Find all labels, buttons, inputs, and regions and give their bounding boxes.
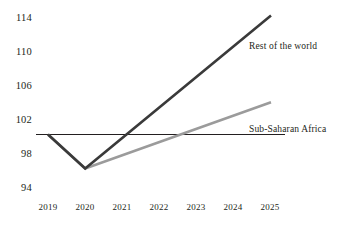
y-tick-94: 94 bbox=[6, 183, 32, 194]
y-tick-98: 98 bbox=[6, 149, 32, 160]
y-tick-102: 102 bbox=[6, 115, 32, 126]
x-tick-2022: 2022 bbox=[141, 203, 177, 212]
series-line-rest-of-the-world bbox=[48, 16, 271, 169]
rest-of-the-world-label: Rest of the world bbox=[249, 42, 317, 52]
sub-saharan-africa-label: Sub-Saharan Africa bbox=[249, 125, 326, 135]
series-line-sub-saharan-africa bbox=[48, 102, 271, 168]
y-tick-114: 114 bbox=[6, 13, 32, 24]
line-chart: 114 110 106 102 98 94 2019 2020 2021 202… bbox=[0, 0, 339, 231]
x-tick-2020: 2020 bbox=[67, 203, 103, 212]
x-tick-2019: 2019 bbox=[30, 203, 66, 212]
plot-area bbox=[0, 0, 339, 231]
x-tick-2021: 2021 bbox=[104, 203, 140, 212]
y-tick-110: 110 bbox=[6, 47, 32, 58]
x-tick-2025: 2025 bbox=[252, 203, 288, 212]
y-tick-106: 106 bbox=[6, 81, 32, 92]
x-tick-2023: 2023 bbox=[178, 203, 214, 212]
x-tick-2024: 2024 bbox=[215, 203, 251, 212]
